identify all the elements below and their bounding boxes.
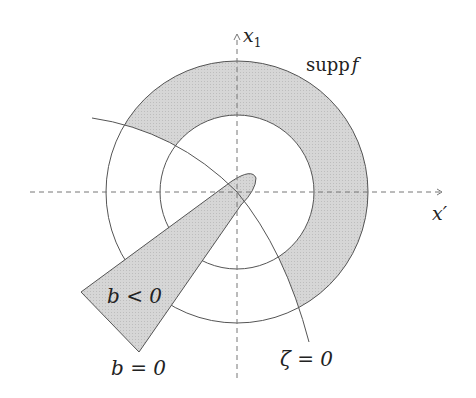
b-negative-label: b < 0	[107, 284, 162, 308]
x1-label-sub: 1	[254, 36, 262, 50]
x1-label: x1	[243, 24, 261, 50]
x1-arrow-icon	[234, 34, 240, 40]
diagram-canvas	[0, 0, 476, 398]
x1-label-var: x	[243, 24, 254, 46]
supp-text: supp	[306, 54, 350, 75]
x-prime-label: x′	[432, 202, 447, 224]
supp-f-label: supp f	[306, 54, 358, 75]
zeta-zero-label: ζ = 0	[280, 347, 333, 371]
b-negative-wedge	[81, 174, 256, 352]
b-zero-label: b = 0	[111, 356, 166, 380]
supp-f-var: f	[352, 54, 359, 75]
